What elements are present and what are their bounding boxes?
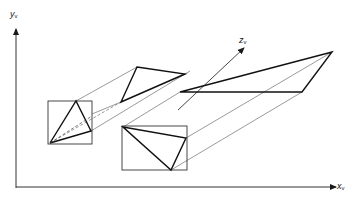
front-view xyxy=(122,126,187,170)
top-view xyxy=(180,52,332,92)
projection-diagram xyxy=(0,0,356,200)
z-axis-label: zv xyxy=(239,36,247,45)
oblique-triangle xyxy=(121,67,185,102)
z-axis xyxy=(178,48,244,110)
y-axis-label: yv xyxy=(10,10,18,19)
x-axis-label: xv xyxy=(337,182,345,191)
